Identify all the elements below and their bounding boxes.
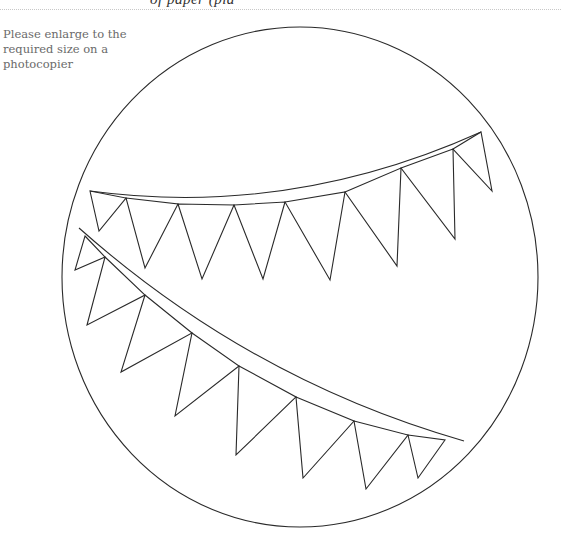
lower-bunting-pennant-8 xyxy=(408,435,445,478)
lower-bunting-pennant-1 xyxy=(75,236,105,270)
upper-bunting-pennant-4 xyxy=(234,202,285,279)
lower-bunting-pennant-4 xyxy=(175,333,239,416)
lower-bunting-string xyxy=(79,228,464,441)
lower-bunting-pennant-6 xyxy=(296,397,354,478)
upper-bunting-pennant-5 xyxy=(285,192,345,280)
upper-bunting-string xyxy=(90,132,481,197)
lower-bunting-pennant-2 xyxy=(87,257,145,325)
upper-bunting-pennant-7 xyxy=(401,149,455,239)
lower-bunting-pennant-3 xyxy=(121,295,192,372)
upper-bunting-pennant-8 xyxy=(453,132,492,191)
lower-bunting-pennant-7 xyxy=(354,421,408,489)
template-circle-outline xyxy=(62,27,538,527)
lower-bunting-pennant-5 xyxy=(236,366,296,455)
bunting-circle-template xyxy=(0,0,561,540)
lower-bunting xyxy=(75,228,464,489)
upper-bunting-pennant-2 xyxy=(126,198,178,268)
upper-bunting-pennant-1 xyxy=(90,191,126,231)
upper-bunting-pennant-3 xyxy=(178,204,234,279)
upper-bunting xyxy=(90,132,492,280)
upper-bunting-pennant-6 xyxy=(345,168,401,266)
